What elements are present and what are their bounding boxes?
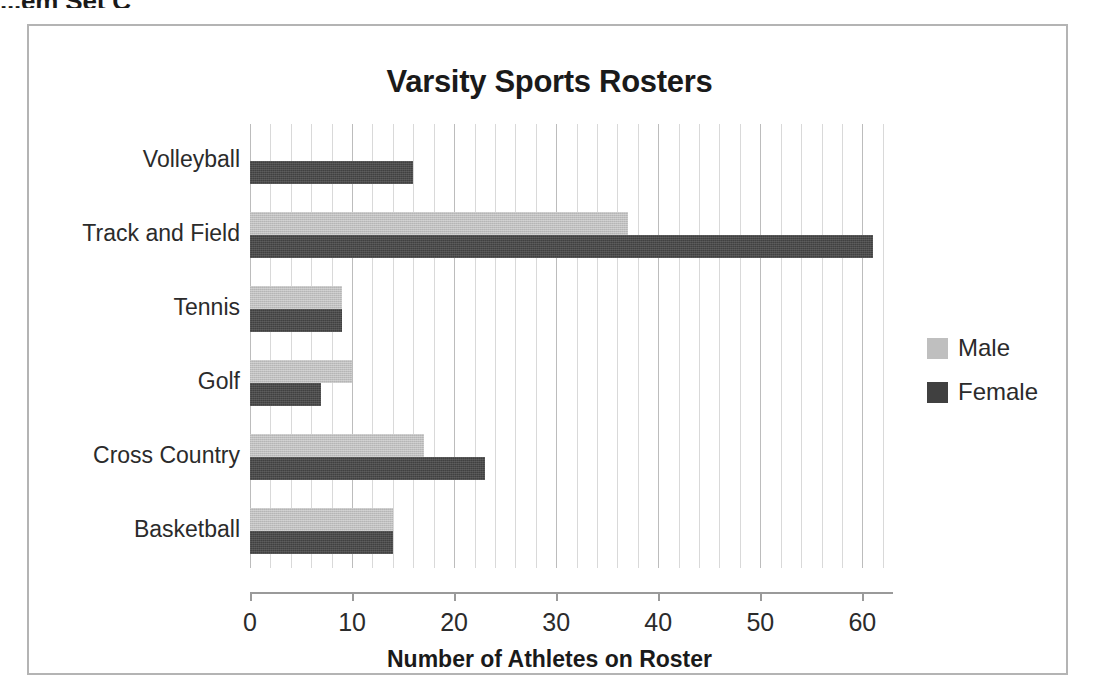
bar-female-basketball[interactable] (250, 531, 393, 554)
x-axis-tick-label: 0 (243, 608, 257, 637)
y-axis-label-cross-country: Cross Country (30, 442, 240, 469)
x-axis-tick-label: 10 (338, 608, 366, 637)
x-axis-tickmark (760, 592, 762, 601)
bar-female-tennis[interactable] (250, 309, 342, 332)
bar-male-basketball[interactable] (250, 508, 393, 531)
y-axis-label-golf: Golf (30, 368, 240, 395)
legend-swatch-icon (927, 338, 948, 359)
legend-item-female[interactable]: Female (927, 370, 1067, 414)
x-axis-tick-label: 50 (746, 608, 774, 637)
x-axis-tickmark (352, 592, 354, 601)
x-axis-title: Number of Athletes on Roster (29, 646, 1070, 673)
bar-group (250, 198, 893, 272)
legend-label: Female (958, 378, 1038, 406)
bar-male-golf[interactable] (250, 360, 352, 383)
bar-male-tennis[interactable] (250, 286, 342, 309)
x-axis-tickmark (454, 592, 456, 601)
bar-group (250, 420, 893, 494)
chart-legend: MaleFemale (927, 326, 1067, 414)
x-axis-tick-label: 30 (542, 608, 570, 637)
y-axis-label-volleyball: Volleyball (30, 146, 240, 173)
bar-group (250, 346, 893, 420)
bar-female-golf[interactable] (250, 383, 321, 406)
x-axis-tick-label: 40 (644, 608, 672, 637)
x-axis-tickmark (658, 592, 660, 601)
x-axis-tick-label: 20 (440, 608, 468, 637)
bar-group (250, 272, 893, 346)
bar-male-track-and-field[interactable] (250, 212, 628, 235)
x-axis-tickmark (556, 592, 558, 601)
y-axis-category-labels: VolleyballTrack and FieldTennisGolfCross… (29, 124, 240, 568)
x-axis-line (250, 592, 893, 594)
bar-female-track-and-field[interactable] (250, 235, 873, 258)
x-axis-tickmark (862, 592, 864, 601)
plot-area (250, 124, 893, 568)
cropped-page-heading: ...em Set C (0, 0, 131, 8)
bar-male-cross-country[interactable] (250, 434, 424, 457)
x-axis-tickmark (250, 592, 252, 601)
y-axis-label-track-and-field: Track and Field (30, 220, 240, 247)
bar-female-volleyball[interactable] (250, 161, 413, 184)
x-axis-tick-label: 60 (848, 608, 876, 637)
y-axis-label-tennis: Tennis (30, 294, 240, 321)
chart-title: Varsity Sports Rosters (29, 64, 1070, 100)
chart-container: Varsity Sports Rosters VolleyballTrack a… (27, 24, 1068, 675)
bar-female-cross-country[interactable] (250, 457, 485, 480)
legend-label: Male (958, 334, 1010, 362)
bar-group (250, 494, 893, 568)
bar-group (250, 124, 893, 198)
y-axis-label-basketball: Basketball (30, 516, 240, 543)
legend-swatch-icon (927, 382, 948, 403)
legend-item-male[interactable]: Male (927, 326, 1067, 370)
